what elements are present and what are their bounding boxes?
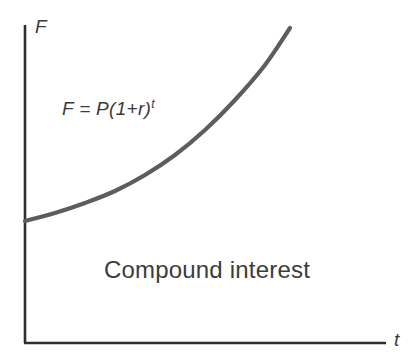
equation-exponent: t [151,97,154,111]
x-axis-label: t [394,330,399,349]
y-axis-label: F [35,17,47,36]
equation-base: F = P(1+r) [62,98,151,119]
chart-caption: Compound interest [0,258,414,282]
plot-area [0,0,414,363]
compound-interest-figure: F t F = P(1+r)t Compound interest [0,0,414,363]
exponential-growth-curve [25,28,290,221]
equation-annotation: F = P(1+r)t [62,98,155,118]
